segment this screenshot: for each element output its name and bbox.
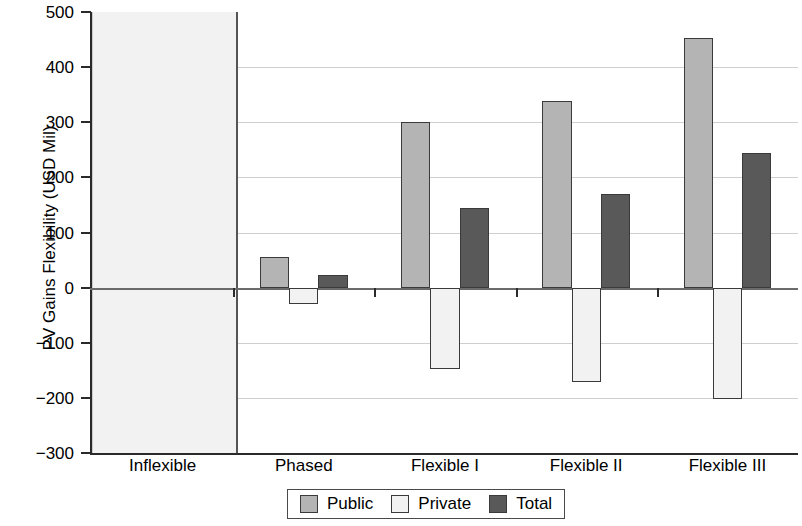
y-axis-tick-label: 0	[22, 279, 74, 296]
x-axis-tick	[233, 288, 235, 297]
y-axis-tick-label: 100	[22, 224, 74, 241]
bar-private-flexible-ii	[572, 288, 601, 383]
y-axis-tick-label: −100	[22, 334, 74, 351]
y-axis-tick-label: 200	[22, 169, 74, 186]
legend-item-private: Private	[391, 494, 471, 514]
x-axis-category-label: Inflexible	[92, 456, 233, 476]
bar-private-phased	[289, 288, 318, 305]
legend-label: Private	[418, 494, 471, 514]
x-axis-tick	[374, 288, 376, 297]
x-axis-category-label: Flexible I	[374, 456, 515, 476]
x-axis-category-label: Flexible II	[516, 456, 657, 476]
bar-public-phased	[260, 257, 289, 287]
bar-chart: PV Gains Flexibility (USD Mil) 500400300…	[0, 0, 802, 526]
legend-item-total: Total	[489, 494, 552, 514]
legend-label: Total	[516, 494, 552, 514]
bar-public-flexible-ii	[542, 101, 571, 287]
bar-private-flexible-i	[430, 288, 459, 370]
chart-legend: PublicPrivateTotal	[287, 489, 565, 519]
x-axis-line	[90, 453, 798, 455]
y-axis-tick-label: 300	[22, 114, 74, 131]
y-axis-line	[90, 12, 92, 453]
inflexible-highlight-band	[92, 12, 238, 453]
legend-swatch-private	[391, 495, 409, 513]
y-axis-tick-label: 500	[22, 4, 74, 21]
legend-item-public: Public	[300, 494, 373, 514]
bar-total-flexible-ii	[601, 194, 630, 287]
legend-label: Public	[327, 494, 373, 514]
legend-swatch-public	[300, 495, 318, 513]
y-axis-tick-label: 400	[22, 59, 74, 76]
x-axis-tick	[516, 288, 518, 297]
bar-total-flexible-iii	[742, 153, 771, 288]
bar-public-flexible-iii	[684, 38, 713, 287]
bar-private-flexible-iii	[713, 288, 742, 399]
y-axis-tick-label: −200	[22, 389, 74, 406]
bar-total-phased	[318, 275, 347, 287]
y-axis-tick-label: −300	[22, 445, 74, 462]
x-axis-category-label: Phased	[233, 456, 374, 476]
bar-public-flexible-i	[401, 122, 430, 288]
legend-swatch-total	[489, 495, 507, 513]
x-axis-tick	[657, 288, 659, 297]
bar-total-flexible-i	[460, 208, 489, 288]
x-axis-category-label: Flexible III	[657, 456, 798, 476]
